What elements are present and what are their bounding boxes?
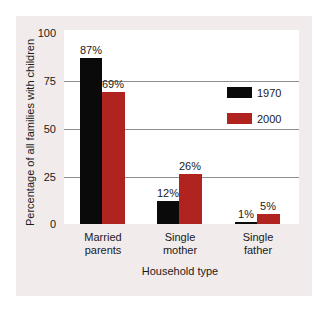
value-label: 87% [71, 44, 111, 56]
ytick-100: 100 [26, 27, 56, 39]
y-axis-label: Percentage of all families with children [24, 42, 36, 226]
bar-1970-single-mother [157, 201, 179, 224]
value-label: 69% [93, 78, 133, 90]
legend-swatch-1970 [227, 87, 252, 98]
x-category-married-parents: Married parents [68, 231, 138, 257]
bar-2000-married [102, 92, 125, 224]
x-category-single-mother: Single mother [145, 231, 215, 257]
x-category-single-father: Single father [223, 231, 293, 257]
bar-1970-single-father [235, 222, 257, 224]
legend-swatch-2000 [227, 113, 252, 124]
value-label: 5% [248, 200, 288, 212]
value-label: 26% [170, 160, 210, 172]
bar-2000-single-mother [179, 174, 202, 224]
legend-label-2000: 2000 [257, 113, 281, 125]
value-label: 12% [148, 187, 188, 199]
x-axis-label: Household type [130, 265, 230, 277]
legend-label-1970: 1970 [257, 87, 281, 99]
